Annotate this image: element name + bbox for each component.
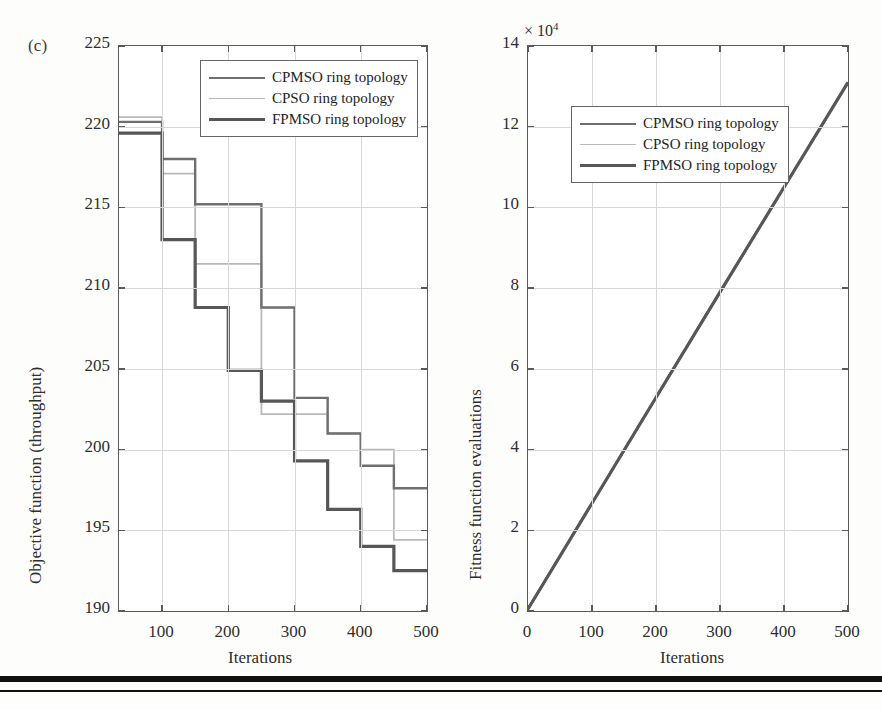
x-tick-mark-top [294,46,295,52]
left-legend: CPMSO ring topologyCPSO ring topologyFPM… [200,60,418,137]
x-tick-label: 200 [625,622,685,642]
x-tick-mark [294,605,295,611]
y-tick-mark [119,126,125,127]
y-tick-mark [528,530,534,531]
y-tick-mark [528,610,534,611]
x-tick-mark [719,605,720,611]
x-tick-mark [228,605,229,611]
gridline-horizontal [528,207,848,208]
legend-label: CPMSO ring topology [272,69,408,86]
legend-swatch-line [209,118,265,121]
legend-swatch-line [580,164,636,167]
x-tick-mark-top [426,46,427,52]
y-tick-mark-right [842,449,848,450]
gridline-horizontal [119,530,427,531]
right-legend: CPMSO ring topologyCPSO ring topologyFPM… [571,106,789,183]
y-tick-mark-right [842,530,848,531]
y-tick-mark-right [421,530,427,531]
series-line-cpmso [119,122,427,488]
y-tick-mark [528,126,534,127]
y-tick-label: 8 [461,275,519,295]
y-tick-mark-right [421,368,427,369]
right-y-axis-title: Fitness function evaluations [466,389,486,580]
y-tick-mark [119,610,125,611]
x-tick-mark [655,605,656,611]
legend-row-cpmso: CPMSO ring topology [580,113,779,134]
y-tick-mark-right [421,126,427,127]
legend-label: FPMSO ring topology [272,111,406,128]
legend-label: CPSO ring topology [272,90,395,107]
legend-swatch-line [580,123,636,125]
gridline-horizontal [528,530,848,531]
y-tick-label: 205 [52,356,110,376]
y-tick-label: 0 [461,598,519,618]
legend-swatch-line [209,77,265,79]
y-tick-label: 210 [52,275,110,295]
panel-label-c: (c) [28,36,47,56]
y-tick-mark-right [421,610,427,611]
y-tick-label: 200 [52,437,110,457]
x-tick-mark-top [527,46,528,52]
gridline-horizontal [528,288,848,289]
y-tick-mark [119,368,125,369]
bottom-rule-thick [0,676,882,682]
y-tick-mark [528,207,534,208]
gridline-horizontal [119,207,427,208]
y-tick-mark-right [421,45,427,46]
right-y-exponent-mantissa: × 10 [524,22,553,39]
y-tick-mark [528,449,534,450]
y-tick-label: 190 [52,598,110,618]
x-tick-mark-top [591,46,592,52]
gridline-horizontal [528,450,848,451]
right-y-exponent-power: 4 [553,20,559,32]
y-tick-mark-right [421,287,427,288]
x-tick-mark-top [655,46,656,52]
y-tick-label: 225 [52,33,110,53]
x-tick-mark-top [847,46,848,52]
y-tick-label: 12 [461,114,519,134]
bottom-rule-thin [0,690,882,692]
figure-root: (c) Objective function (throughput) Iter… [0,0,882,710]
x-tick-mark [591,605,592,611]
y-tick-label: 14 [461,33,519,53]
left-x-axis-title: Iterations [228,648,292,668]
x-tick-label: 100 [561,622,621,642]
y-tick-label: 4 [461,437,519,457]
x-tick-mark [360,605,361,611]
y-tick-mark-right [842,126,848,127]
y-tick-mark-right [842,610,848,611]
y-tick-mark-right [842,45,848,46]
legend-row-cpso: CPSO ring topology [580,134,779,155]
x-tick-label: 300 [689,622,749,642]
y-tick-mark [528,368,534,369]
x-tick-label: 500 [396,622,456,642]
y-tick-label: 215 [52,194,110,214]
y-tick-mark [119,207,125,208]
y-tick-mark-right [842,207,848,208]
y-tick-mark-right [421,449,427,450]
gridline-vertical [162,46,163,611]
y-tick-label: 10 [461,194,519,214]
x-tick-label: 200 [197,622,257,642]
series-line-cpso [119,117,427,540]
x-tick-label: 400 [753,622,813,642]
x-tick-label: 100 [131,622,191,642]
x-tick-label: 400 [330,622,390,642]
gridline-horizontal [119,450,427,451]
x-tick-mark-top [719,46,720,52]
x-tick-mark-top [228,46,229,52]
legend-row-cpso: CPSO ring topology [209,88,408,109]
x-tick-mark-top [360,46,361,52]
gridline-horizontal [119,288,427,289]
y-tick-mark [119,45,125,46]
y-tick-label: 2 [461,517,519,537]
y-tick-mark-right [421,207,427,208]
x-tick-mark [783,605,784,611]
x-tick-mark-top [161,46,162,52]
x-tick-label: 500 [817,622,877,642]
y-tick-mark [119,449,125,450]
y-tick-mark [119,530,125,531]
right-x-axis-title: Iterations [660,648,724,668]
legend-row-fpmso: FPMSO ring topology [580,155,779,176]
legend-label: CPSO ring topology [643,136,766,153]
